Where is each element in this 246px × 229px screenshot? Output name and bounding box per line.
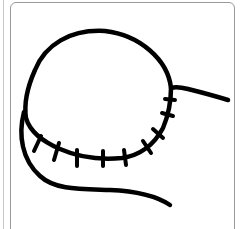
stitch-mark <box>162 113 173 116</box>
suture-thread-tail-right <box>171 87 228 100</box>
stitch-mark <box>165 99 175 100</box>
stitch-marks <box>34 99 175 166</box>
stitch-mark <box>124 150 126 165</box>
wound-outline <box>25 31 171 159</box>
suture-illustration <box>0 0 246 229</box>
